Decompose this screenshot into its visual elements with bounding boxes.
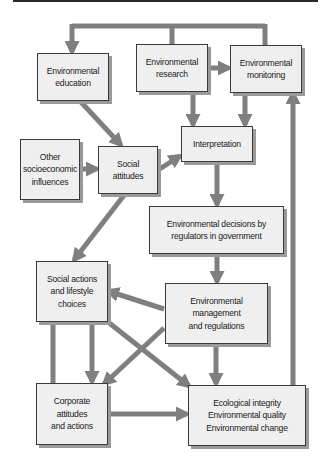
node-environmental-research: Environmental research <box>136 44 208 92</box>
node-label: Interpretation <box>193 138 241 151</box>
connector-management-to-social-actions <box>108 291 164 309</box>
node-environmental-monitoring: Environmental monitoring <box>230 45 302 93</box>
node-label: Social attitudes <box>113 158 144 183</box>
node-other-socioeconomic-influences: Other socioeconomic influences <box>20 139 80 200</box>
node-label: Environmental management and regulations <box>189 295 245 333</box>
flow-diagram: Environmental education Environmental re… <box>0 0 328 467</box>
node-label: Corporate attitudes and actions <box>51 395 93 433</box>
node-label: Social actions and lifestyle choices <box>47 273 97 311</box>
node-label: Environmental education <box>47 65 99 90</box>
node-interpretation: Interpretation <box>181 126 253 162</box>
node-label: Environmental decisions by regulators in… <box>167 218 266 243</box>
connector-social-attitudes-to-social-actions <box>74 194 125 260</box>
node-label: Environmental monitoring <box>240 57 292 82</box>
node-environmental-decisions: Environmental decisions by regulators in… <box>149 206 284 254</box>
node-social-attitudes: Social attitudes <box>98 146 158 194</box>
connector-education-to-social-attitudes <box>80 101 121 145</box>
node-environmental-management: Environmental management and regulations <box>165 283 268 344</box>
node-ecological-integrity: Ecological integrity Environmental quali… <box>188 385 306 446</box>
node-corporate-attitudes: Corporate attitudes and actions <box>36 383 108 445</box>
node-environmental-education: Environmental education <box>37 53 109 101</box>
connector-social-attitudes-to-interpretation <box>158 156 180 170</box>
node-label: Ecological integrity Environmental quali… <box>206 397 288 435</box>
node-label: Environmental research <box>146 56 198 81</box>
node-social-actions: Social actions and lifestyle choices <box>36 261 108 322</box>
node-label: Other socioeconomic influences <box>23 151 77 189</box>
